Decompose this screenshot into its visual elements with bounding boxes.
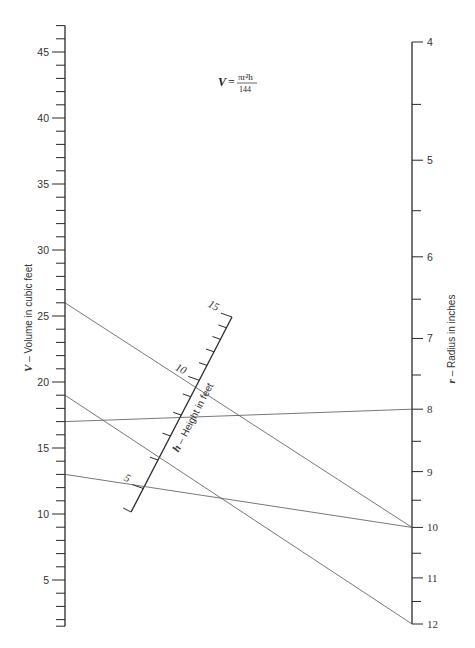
v-tick-label: 40	[37, 112, 49, 124]
v-tick-label: 20	[37, 376, 49, 388]
h-minor-tick	[212, 337, 220, 340]
isopleth-line	[65, 395, 412, 624]
v-tick-label: 30	[37, 244, 49, 256]
h-axis-line	[131, 317, 232, 512]
h-minor-tick	[206, 349, 214, 352]
r-tick-label: 6	[427, 251, 433, 263]
v-tick-label: 10	[37, 508, 49, 520]
example-isopleths	[65, 303, 412, 624]
h-minor-tick	[173, 412, 181, 415]
v-tick-label: 15	[37, 442, 49, 454]
isopleth-line	[65, 409, 412, 421]
v-tick-label: 35	[37, 178, 49, 190]
formula-numerator: πr²h	[238, 72, 253, 82]
h-major-tick	[221, 313, 232, 317]
r-tick-label: 5	[427, 154, 433, 166]
formula: V= πr²h 144	[218, 72, 257, 94]
r-tick-label: 9	[427, 466, 433, 478]
h-major-tick	[188, 376, 199, 380]
h-tick-label: 5	[122, 471, 133, 484]
h-tick-label: 15	[206, 297, 222, 313]
r-tick-label: 4	[427, 36, 433, 48]
v-tick-label: 25	[37, 310, 49, 322]
r-axis-title: r – Radius in inches	[445, 295, 457, 384]
r-tick-label: 7	[427, 332, 433, 344]
v-tick-label: 45	[37, 46, 49, 58]
r-tick-label: 12	[427, 618, 438, 630]
h-end-tick	[123, 508, 131, 512]
formula-denominator: 144	[239, 85, 251, 94]
formula-lhs: V=	[218, 75, 235, 89]
v-scale-axis: 51015202530354045	[37, 26, 65, 627]
h-minor-tick	[218, 325, 226, 328]
h-minor-tick	[162, 433, 170, 436]
v-axis-title: V – Volume in cubic feet	[22, 264, 34, 372]
r-scale-axis: 456789101112	[412, 36, 439, 630]
h-scale-axis: 51015	[122, 297, 232, 512]
h-tick-label: 10	[174, 361, 190, 377]
h-minor-tick	[199, 363, 207, 366]
r-tick-label: 10	[427, 521, 439, 533]
h-axis-title: h – Height in feet	[170, 380, 216, 453]
h-minor-tick	[183, 394, 191, 397]
h-minor-tick	[150, 457, 158, 460]
r-tick-label: 11	[427, 572, 438, 584]
r-tick-label: 8	[427, 403, 433, 415]
nomogram: 51015202530354045 456789101112 51015 V= …	[0, 0, 475, 648]
v-tick-label: 5	[43, 574, 49, 586]
isopleth-line	[65, 474, 412, 527]
